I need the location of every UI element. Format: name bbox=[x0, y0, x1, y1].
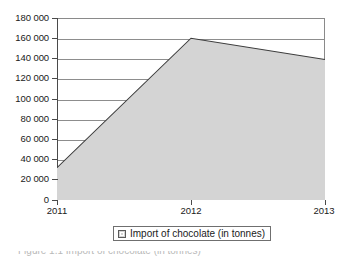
ytick-140000 bbox=[52, 58, 58, 59]
ytick-label-140000: 140 000 bbox=[0, 53, 49, 63]
ytick-label-100000: 100 000 bbox=[0, 94, 49, 104]
area-fill bbox=[57, 38, 325, 200]
ytick-label-0: 0 bbox=[0, 195, 49, 205]
xtick-label-2011: 2011 bbox=[29, 205, 85, 216]
xtick-label-2012: 2012 bbox=[163, 205, 219, 216]
figure-caption-text: Figure 1.1 Import of chocolate (in tonne… bbox=[18, 251, 201, 257]
ytick-label-120000: 120 000 bbox=[0, 73, 49, 83]
legend-item-label: Import of chocolate (in tonnes) bbox=[130, 228, 265, 239]
ytick-40000 bbox=[52, 159, 58, 160]
chart-legend: Import of chocolate (in tonnes) bbox=[113, 226, 271, 241]
ytick-180000 bbox=[52, 18, 58, 19]
ytick-label-20000: 20 000 bbox=[0, 174, 49, 184]
ytick-60000 bbox=[52, 139, 58, 140]
ytick-80000 bbox=[52, 119, 58, 120]
ytick-label-160000: 160 000 bbox=[0, 33, 49, 43]
ytick-160000 bbox=[52, 38, 58, 39]
figure-caption-clipped: Figure 1.1 Import of chocolate (in tonne… bbox=[0, 251, 349, 258]
ytick-120000 bbox=[52, 78, 58, 79]
series-import-of-chocolate bbox=[57, 18, 325, 200]
legend-square-icon bbox=[118, 230, 126, 238]
xtick-label-2013: 2013 bbox=[296, 205, 349, 216]
area-chart-figure: 180 000 160 000 140 000 120 000 100 000 … bbox=[0, 0, 349, 258]
ytick-100000 bbox=[52, 99, 58, 100]
ytick-20000 bbox=[52, 179, 58, 180]
ytick-label-180000: 180 000 bbox=[0, 13, 49, 23]
ytick-label-40000: 40 000 bbox=[0, 154, 49, 164]
ytick-label-60000: 60 000 bbox=[0, 134, 49, 144]
ytick-label-80000: 80 000 bbox=[0, 114, 49, 124]
